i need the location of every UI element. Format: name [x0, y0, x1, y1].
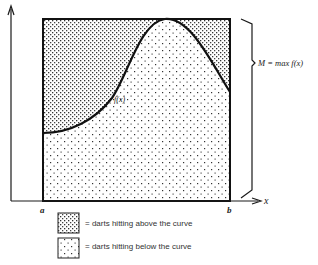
brace-label: M = max f(x) [257, 58, 303, 68]
legend-item-above: = darts hitting above the curve [58, 213, 193, 233]
curve-label: f(x) [114, 95, 125, 104]
x-axis-label: x [263, 195, 269, 206]
tick-a: a [40, 205, 45, 215]
monte-carlo-diagram: x a b f(x) M = max f(x) = darts hitting … [0, 0, 318, 265]
legend: = darts hitting above the curve = darts … [58, 213, 193, 258]
y-axis [8, 6, 14, 201]
sparse-dots-swatch-icon [58, 238, 79, 258]
legend-item-below: = darts hitting below the curve [58, 238, 192, 258]
brace-icon [241, 19, 255, 198]
dense-dots-swatch-icon [58, 213, 79, 233]
tick-b: b [227, 205, 232, 215]
legend-label-below: = darts hitting below the curve [85, 242, 192, 251]
legend-label-above: = darts hitting above the curve [85, 219, 193, 228]
